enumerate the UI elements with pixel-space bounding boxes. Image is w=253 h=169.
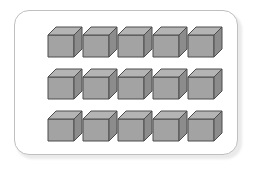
cube [48, 69, 82, 99]
cube-front-face [153, 77, 179, 99]
cube [118, 69, 152, 99]
cube [188, 111, 222, 141]
cube [118, 111, 152, 141]
cube-front-face [118, 119, 144, 141]
cube [188, 27, 222, 57]
cube-front-face [83, 119, 109, 141]
cube-front-face [48, 35, 74, 57]
cube-front-face [48, 77, 74, 99]
cube-front-face [48, 119, 74, 141]
cube [118, 27, 152, 57]
cube-front-face [188, 119, 214, 141]
cube-front-face [118, 77, 144, 99]
cube [83, 27, 117, 57]
cube [83, 111, 117, 141]
cube-front-face [188, 35, 214, 57]
cube-front-face [153, 119, 179, 141]
cube [153, 27, 187, 57]
cube [153, 69, 187, 99]
cube-front-face [118, 35, 144, 57]
cube [48, 27, 82, 57]
cube-front-face [188, 77, 214, 99]
cube-front-face [83, 77, 109, 99]
cube [83, 69, 117, 99]
cube-grid [0, 0, 253, 169]
cube-front-face [83, 35, 109, 57]
cube-front-face [153, 35, 179, 57]
cube [48, 111, 82, 141]
cube [188, 69, 222, 99]
canvas [0, 0, 253, 169]
cube [153, 111, 187, 141]
